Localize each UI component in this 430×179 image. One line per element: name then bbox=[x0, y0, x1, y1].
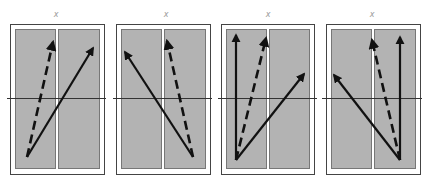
panel-3: x bbox=[218, 10, 317, 175]
panel-1: x bbox=[7, 10, 106, 175]
panel-4: x bbox=[322, 10, 422, 175]
vector-diagram-figure: x x x x bbox=[0, 0, 430, 179]
panel-3-label: x bbox=[265, 10, 271, 19]
panel-2-label: x bbox=[163, 10, 169, 19]
panel-1-label: x bbox=[53, 10, 59, 19]
panel-2: x bbox=[113, 10, 212, 175]
panel-4-label: x bbox=[369, 10, 375, 19]
